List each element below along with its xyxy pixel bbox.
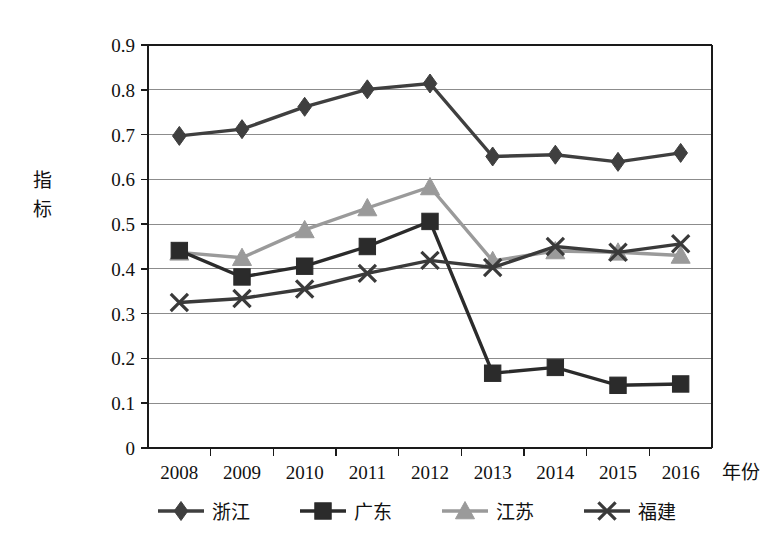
legend-label-广东: 广东 [354,502,392,523]
legend-label-江苏: 江苏 [496,502,534,523]
y-tick-label-0.3: 0.3 [111,304,135,325]
legend-label-福建: 福建 [638,502,676,523]
datapoint-广东-2016-square-icon [672,376,688,392]
datapoint-广东-2009 [234,269,250,285]
datapoint-广东-2009-square-icon [234,269,250,285]
datapoint-广东-2011 [359,238,375,254]
datapoint-广东-2011-square-icon [359,238,375,254]
legend-marker-广东 [315,503,331,519]
datapoint-广东-2010 [296,258,312,274]
y-tick-label-0.9: 0.9 [111,35,135,56]
y-tick-label-0.4: 0.4 [111,259,135,280]
x-tick-label-2013: 2013 [474,462,512,483]
x-tick-label-2008: 2008 [160,462,198,483]
y-tick-label-0.5: 0.5 [111,214,135,235]
x-tick-label-2015: 2015 [599,462,637,483]
y-tick-label-0.8: 0.8 [111,80,135,101]
y-tick-label-0.6: 0.6 [111,169,135,190]
datapoint-广东-2015-square-icon [610,377,626,393]
line-chart-svg: 00.10.20.30.40.50.60.70.80.9 20082009201… [0,0,768,553]
legend-marker-广东-square-icon [315,503,331,519]
datapoint-广东-2013 [484,365,500,381]
x-tick-label-2016: 2016 [662,462,700,483]
x-tick-label-2012: 2012 [411,462,449,483]
datapoint-广东-2008 [171,242,187,258]
y-tick-label-0.2: 0.2 [111,348,135,369]
x-tick-label-2014: 2014 [536,462,575,483]
y-tick-label-0.1: 0.1 [111,393,135,414]
datapoint-广东-2015 [610,377,626,393]
x-tick-label-2010: 2010 [286,462,324,483]
x-axis-title: 年份 [722,462,760,483]
y-tick-label-0: 0 [126,438,136,459]
datapoint-广东-2016 [672,376,688,392]
datapoint-广东-2008-square-icon [171,242,187,258]
datapoint-广东-2012-square-icon [422,213,438,229]
chart-figure: 00.10.20.30.40.50.60.70.80.9 20082009201… [0,0,768,553]
y-axis-title-char-1: 指 [33,170,52,191]
x-tick-label-2011: 2011 [349,462,386,483]
datapoint-广东-2012 [422,213,438,229]
datapoint-广东-2014 [547,359,563,375]
legend-label-浙江: 浙江 [212,502,250,523]
datapoint-广东-2014-square-icon [547,359,563,375]
datapoint-广东-2010-square-icon [296,258,312,274]
datapoint-广东-2013-square-icon [484,365,500,381]
x-tick-label-2009: 2009 [223,462,261,483]
y-axis-title-char-2: 标 [33,199,52,220]
y-tick-label-0.7: 0.7 [111,125,135,146]
x-axis-tick-labels-group: 200820092010201120122013201420152016 [160,462,699,483]
